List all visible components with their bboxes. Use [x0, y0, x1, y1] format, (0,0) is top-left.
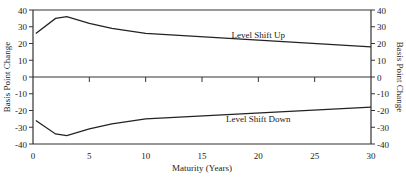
y-tick-label-left: -40 [15, 140, 27, 150]
y-tick-label-left: -10 [15, 89, 27, 99]
series-level-shift-up [36, 17, 371, 47]
y-tick-label-right: -20 [377, 106, 389, 116]
y-tick-label-right: -30 [377, 123, 389, 133]
y-tick-label-left: -30 [15, 123, 27, 133]
x-axis-label: Maturity (Years) [172, 163, 232, 173]
y-tick-label-left: 30 [18, 22, 28, 32]
chart-svg: -40-40-30-30-20-20-10-100010102020303040… [0, 0, 406, 185]
x-tick-label: 30 [367, 151, 377, 161]
y-tick-label-left: 20 [18, 39, 28, 49]
y-axis-label-right: Basis Point Change [395, 42, 405, 113]
y-axis-label-left: Basis Point Change [2, 42, 12, 113]
x-tick-label: 20 [254, 151, 264, 161]
y-tick-label-left: 40 [18, 6, 28, 16]
y-tick-label-right: 20 [377, 39, 387, 49]
level-shift-chart: -40-40-30-30-20-20-10-100010102020303040… [0, 0, 406, 185]
x-tick-label: 10 [141, 151, 151, 161]
y-tick-label-right: -10 [377, 89, 389, 99]
y-tick-label-right: 40 [377, 6, 387, 16]
annotation-level-shift-down: Level Shift Down [226, 114, 291, 124]
y-tick-label-left: 10 [18, 56, 28, 66]
series-level-shift-down [36, 107, 371, 135]
y-tick-label-left: -20 [15, 106, 27, 116]
x-tick-label: 0 [31, 151, 36, 161]
y-tick-label-right: 10 [377, 56, 387, 66]
y-tick-label-left: 0 [23, 73, 28, 83]
x-tick-label: 5 [87, 151, 92, 161]
y-tick-label-right: 30 [377, 22, 387, 32]
y-tick-label-right: 0 [377, 73, 382, 83]
y-tick-label-right: -40 [377, 140, 389, 150]
x-tick-label: 15 [198, 151, 208, 161]
annotation-level-shift-up: Level Shift Up [232, 30, 286, 40]
x-tick-label: 25 [310, 151, 320, 161]
